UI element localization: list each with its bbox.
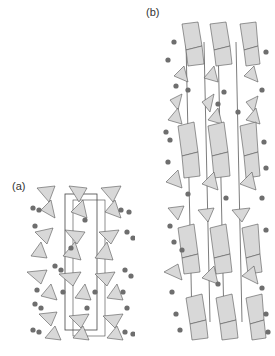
panel-b-structure xyxy=(158,2,273,354)
panel-a-label: (a) xyxy=(12,180,25,192)
panel-a-structure xyxy=(25,180,135,345)
